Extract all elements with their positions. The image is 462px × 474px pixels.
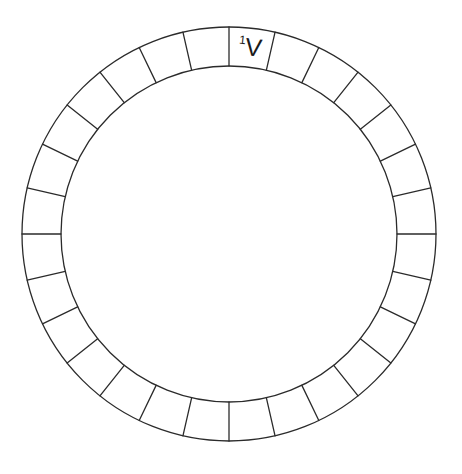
ring-cell-group	[22, 27, 436, 441]
segmented-ring-diagram: 1V	[0, 0, 462, 474]
cell-label-base: V	[244, 32, 264, 62]
diagram-stage: 1V	[0, 0, 462, 474]
inner-circle	[61, 66, 397, 402]
